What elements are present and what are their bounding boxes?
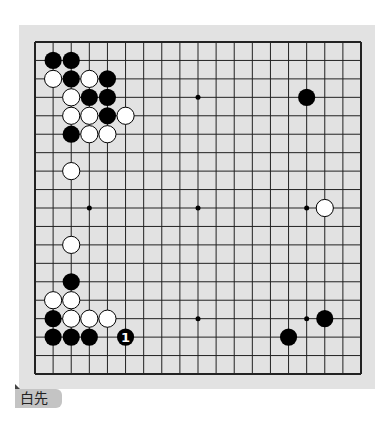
black-stone: 1 <box>117 329 134 346</box>
black-stone <box>81 89 98 106</box>
star-point <box>196 206 201 211</box>
star-point <box>196 316 201 321</box>
stones-layer: 1 <box>45 52 334 346</box>
black-stone <box>45 329 62 346</box>
black-stone <box>63 70 80 87</box>
white-stone <box>63 107 80 124</box>
black-stone <box>63 126 80 143</box>
star-point <box>196 95 201 100</box>
star-point <box>87 206 92 211</box>
black-stone <box>63 273 80 290</box>
black-stone <box>99 89 116 106</box>
white-stone <box>45 292 62 309</box>
white-stone <box>316 199 333 216</box>
white-stone <box>63 163 80 180</box>
star-point <box>304 206 309 211</box>
white-stone <box>117 107 134 124</box>
black-stone <box>99 107 116 124</box>
white-stone <box>81 70 98 87</box>
white-stone <box>81 107 98 124</box>
black-stone <box>280 329 297 346</box>
white-stone <box>63 89 80 106</box>
black-stone <box>63 329 80 346</box>
black-stone <box>63 52 80 69</box>
star-point <box>304 316 309 321</box>
white-stone <box>45 70 62 87</box>
black-stone <box>81 329 98 346</box>
black-stone <box>45 310 62 327</box>
white-stone <box>81 310 98 327</box>
to-play-label: 白先 <box>15 389 62 408</box>
black-stone <box>316 310 333 327</box>
black-stone <box>99 70 116 87</box>
black-stone <box>298 89 315 106</box>
white-stone <box>63 292 80 309</box>
white-stone <box>63 310 80 327</box>
white-stone <box>99 310 116 327</box>
black-stone <box>45 52 62 69</box>
white-stone <box>63 236 80 253</box>
go-board[interactable]: 1 <box>0 0 390 427</box>
move-number: 1 <box>121 330 130 345</box>
white-stone <box>81 126 98 143</box>
white-stone <box>99 126 116 143</box>
